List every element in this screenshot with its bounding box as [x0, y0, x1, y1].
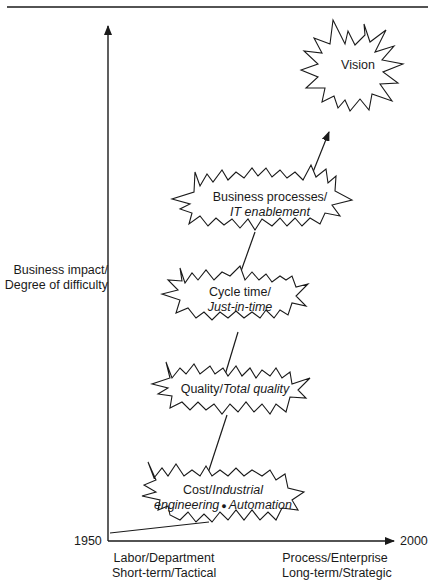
industrial-text: Industrial [212, 483, 263, 497]
cycle-time-title: Cycle time/ [190, 285, 290, 300]
y-axis-label-line1: Business impact/ [4, 263, 108, 278]
bullet-icon: ● [219, 501, 228, 511]
x-axis-right-line1: Process/Enterprise [282, 551, 388, 566]
vision-text: Vision [341, 58, 375, 72]
it-enablement-text: IT enablement [200, 205, 340, 220]
x-axis-right-label: Process/Enterprise Long-term/Strategic [282, 551, 388, 581]
vision-label: Vision [330, 58, 386, 73]
quality-label: Quality/Total quality [170, 382, 300, 397]
x-axis-left-line2: Short-term/Tactical [112, 566, 216, 581]
connector-cycle-business [240, 232, 255, 274]
x-axis-right-line2: Long-term/Strategic [282, 566, 388, 581]
x-axis-start-year: 1950 [74, 534, 102, 549]
business-processes-label: Business processes/ IT enablement [200, 190, 340, 220]
cycle-time-label: Cycle time/ Just-in-time [190, 285, 290, 315]
cost-label: Cost/Industrial engineering●Automation [148, 483, 298, 514]
x-axis-left-label: Labor/Department Short-term/Tactical [112, 551, 216, 581]
engineering-text: engineering [154, 498, 219, 512]
connector-cost-quality [208, 415, 227, 473]
total-quality-text: Total quality [223, 382, 289, 396]
connector-origin-cost [110, 522, 209, 533]
x-axis-end-year: 2000 [400, 534, 428, 549]
y-axis-label: Business impact/ Degree of difficulty [4, 263, 108, 293]
business-processes-title: Business processes/ [200, 190, 340, 205]
just-in-time-text: Just-in-time [190, 300, 290, 315]
x-axis-left-line1: Labor/Department [112, 551, 216, 566]
y-axis-label-line2: Degree of difficulty [4, 278, 108, 293]
automation-text: Automation [229, 498, 292, 512]
cost-title: Cost/ [183, 483, 212, 497]
quality-title: Quality/ [181, 382, 223, 396]
